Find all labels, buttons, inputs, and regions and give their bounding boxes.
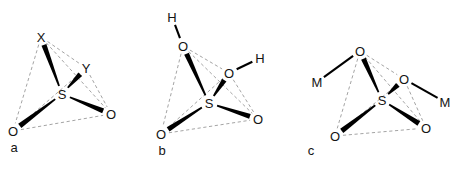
- structure-panel-b: SOOOOHHb: [156, 10, 265, 158]
- atom-label-O-top: O: [355, 44, 365, 59]
- bond-S-X: [41, 44, 59, 86]
- atom-label-O-top: O: [178, 39, 188, 54]
- tetrahedron-edge-X-Y: [48, 42, 80, 64]
- atom-label-M-right: M: [440, 95, 451, 110]
- atom-label-Y: Y: [82, 61, 91, 76]
- bond-S-O-left: [167, 107, 203, 132]
- bond-S-Y: [67, 72, 82, 88]
- atom-label-O-right: O: [421, 121, 431, 136]
- atom-label-S: S: [378, 93, 387, 108]
- bond-S-O-right: [389, 104, 421, 126]
- atom-label-H-right: H: [255, 51, 264, 66]
- central-bonds: [167, 53, 251, 132]
- atom-label-O-mid: O: [399, 72, 409, 87]
- bond-S-O-left: [18, 98, 56, 128]
- atom-label-O-right: O: [253, 112, 263, 127]
- panel-caption-c: c: [308, 143, 315, 158]
- structure-panel-a: SXYOOa: [8, 30, 116, 155]
- atom-label-M-left: M: [312, 75, 323, 90]
- substituent-bonds: [324, 56, 438, 98]
- molecular-structure-figure: SXYOOaSOOOOHHbSOOOOMMc: [0, 0, 464, 171]
- bond-O-mid-M-right: [411, 83, 437, 98]
- structure-panel-c: SOOOOMMc: [308, 44, 451, 158]
- tetrahedron-edge-O-mid-O-left: [167, 78, 223, 128]
- atom-label-O-mid: O: [224, 66, 234, 81]
- panels-root: SXYOOaSOOOOHHbSOOOOMMc: [8, 10, 450, 158]
- atom-label-H-top: H: [167, 10, 176, 25]
- tetrahedron-edge-O-top-O-left: [337, 59, 357, 129]
- atom-label-O-left: O: [156, 127, 166, 142]
- bond-O-top-H-top: [175, 25, 180, 38]
- bond-S-O-right: [70, 96, 105, 113]
- atom-label-O-left: O: [330, 129, 340, 144]
- tetrahedron-edge-O-top-O-left: [163, 54, 181, 126]
- atom-label-O-left: O: [8, 124, 18, 139]
- tetrahedron-edge-O-mid-O-right: [233, 80, 253, 112]
- tetrahedron-edges: [163, 50, 254, 133]
- tetrahedron-edge-O-top-O-mid: [190, 50, 222, 69]
- panel-caption-a: a: [10, 140, 18, 155]
- bond-O-top-M-left: [324, 56, 353, 77]
- atom-labels: SOOOOHH: [156, 10, 265, 142]
- atom-label-X: X: [37, 30, 46, 45]
- tetrahedron-edge-O-left-O-right: [343, 129, 418, 136]
- bond-O-mid-H-right: [237, 62, 253, 70]
- panel-caption-b: b: [158, 143, 165, 158]
- atom-label-S: S: [58, 87, 67, 102]
- atom-label-S: S: [205, 96, 214, 111]
- bond-S-O-top: [184, 53, 206, 96]
- bond-S-O-left: [340, 104, 376, 132]
- bond-S-O-right: [217, 105, 251, 119]
- atom-label-O-right: O: [106, 107, 116, 122]
- tetrahedron-edge-Y-O-right: [90, 75, 107, 107]
